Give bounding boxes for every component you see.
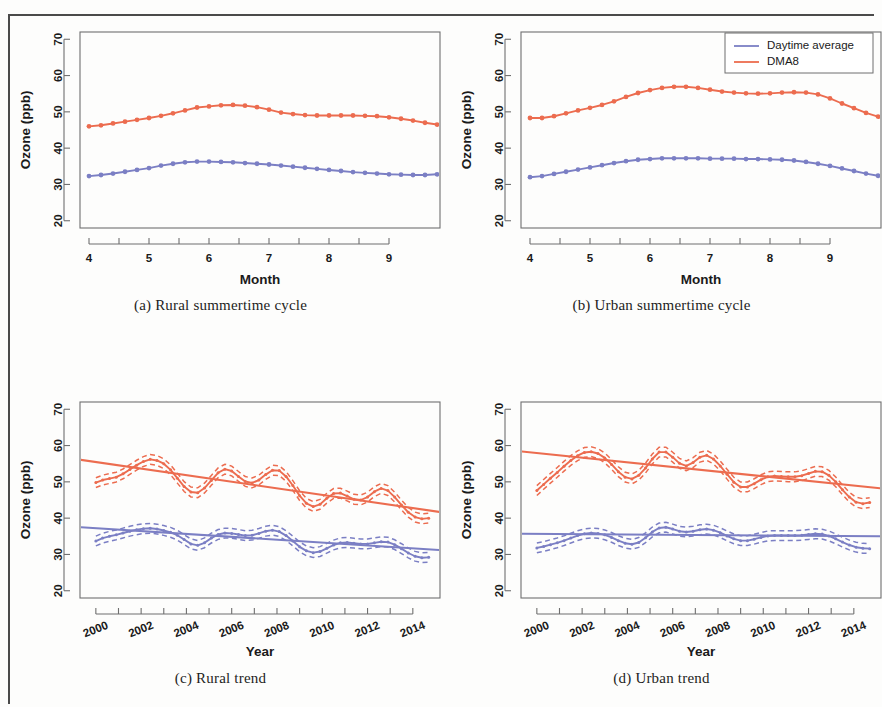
data-point <box>732 481 735 484</box>
data-point <box>312 505 315 508</box>
x-tick-label: 2014 <box>839 619 868 640</box>
data-point <box>644 467 647 470</box>
x-tick-label: 9 <box>827 252 833 264</box>
data-curve <box>530 158 878 177</box>
data-point <box>111 121 116 126</box>
y-tick-label: 70 <box>52 33 64 46</box>
x-tick-label: 2010 <box>308 619 336 640</box>
data-point <box>122 472 125 475</box>
data-point <box>648 88 653 93</box>
data-point <box>855 501 858 504</box>
y-axis-title: Ozone (ppb) <box>459 461 474 540</box>
data-point <box>876 114 881 119</box>
data-point <box>135 117 140 122</box>
data-point <box>363 113 368 118</box>
data-point <box>373 490 376 493</box>
y-tick-label: 20 <box>52 214 64 227</box>
data-point <box>556 541 559 544</box>
linear-trend-line <box>80 527 440 550</box>
y-tick-label: 20 <box>493 584 505 597</box>
data-point <box>720 156 725 161</box>
data-point <box>644 536 647 539</box>
x-tick-label: 9 <box>386 252 392 264</box>
y-axis-title: Ozone (ppb) <box>18 91 33 170</box>
data-point <box>804 160 809 165</box>
data-curve <box>89 105 437 126</box>
data-point <box>827 474 830 477</box>
data-point <box>780 90 785 95</box>
y-axis-title: Ozone (ppb) <box>18 461 33 540</box>
data-point <box>171 161 176 166</box>
data-point <box>569 459 572 462</box>
data-point <box>435 172 440 177</box>
data-point <box>271 529 274 532</box>
data-point <box>792 158 797 163</box>
data-point <box>380 487 383 490</box>
data-point <box>612 161 617 166</box>
data-point <box>171 111 176 116</box>
data-point <box>672 156 677 161</box>
panel-d-urban-trend: 203040506070Ozone (ppb)20002002200420062… <box>449 386 882 676</box>
data-point <box>375 114 380 119</box>
data-point <box>800 474 803 477</box>
data-point <box>312 551 315 554</box>
data-point <box>732 537 735 540</box>
data-point <box>159 163 164 168</box>
data-point <box>189 542 192 545</box>
data-point <box>756 157 761 162</box>
data-point <box>768 91 773 96</box>
x-tick-label: 2002 <box>568 619 596 640</box>
data-point <box>346 495 349 498</box>
data-point <box>135 168 140 173</box>
confidence-band-upper <box>96 454 429 514</box>
data-point <box>816 161 821 166</box>
data-point <box>203 487 206 490</box>
data-point <box>327 168 332 173</box>
y-tick-label: 60 <box>52 439 64 452</box>
chart-a: 203040506070Ozone (ppb)456789Month <box>8 16 449 306</box>
data-point <box>373 541 376 544</box>
data-point <box>339 113 344 118</box>
data-point <box>351 113 356 118</box>
data-point <box>319 503 322 506</box>
data-point <box>423 173 428 178</box>
data-point <box>841 488 844 491</box>
data-point <box>564 111 569 116</box>
x-tick-label: 7 <box>266 252 272 264</box>
data-point <box>195 105 200 110</box>
x-axis-title: Month <box>240 272 280 287</box>
data-point <box>848 544 851 547</box>
data-curve <box>537 452 870 504</box>
data-point <box>651 457 654 460</box>
data-point <box>162 462 165 465</box>
data-point <box>556 471 559 474</box>
data-point <box>678 530 681 533</box>
data-point <box>753 482 756 485</box>
data-point <box>563 465 566 468</box>
data-point <box>223 468 226 471</box>
data-point <box>828 164 833 169</box>
data-point <box>841 541 844 544</box>
x-tick-label: 6 <box>647 252 653 264</box>
data-point <box>692 461 695 464</box>
data-point <box>399 116 404 121</box>
data-point <box>600 103 605 108</box>
data-point <box>393 543 396 546</box>
data-point <box>298 494 301 497</box>
data-point <box>243 161 248 166</box>
data-point <box>624 95 629 100</box>
data-point <box>99 123 104 128</box>
plot-frame <box>80 402 440 598</box>
data-point <box>744 157 749 162</box>
data-point <box>705 528 708 531</box>
data-point <box>744 91 749 96</box>
y-tick-label: 60 <box>493 439 505 452</box>
x-tick-label: 6 <box>206 252 212 264</box>
data-point <box>692 530 695 533</box>
data-point <box>108 477 111 480</box>
data-point <box>305 549 308 552</box>
data-point <box>569 537 572 540</box>
y-tick-label: 50 <box>52 105 64 118</box>
x-tick-label: 7 <box>707 252 713 264</box>
data-point <box>540 174 545 179</box>
